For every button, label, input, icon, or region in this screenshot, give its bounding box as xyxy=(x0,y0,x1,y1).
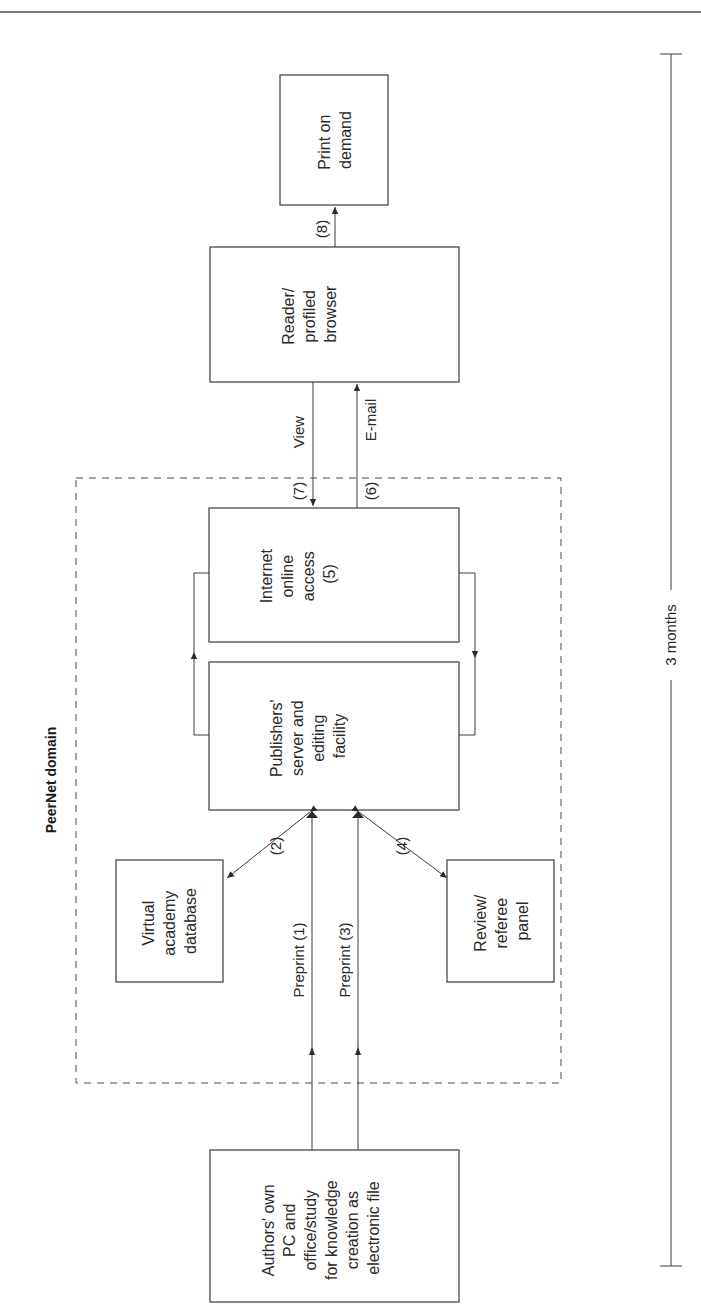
edge-publish-to-internet xyxy=(194,652,209,735)
node-reader-browser: Reader/ profiled browser xyxy=(210,247,459,382)
edge-label-step8: (8) xyxy=(313,220,330,238)
edge-label-view: View xyxy=(290,416,307,448)
arrow-head-preprint1 xyxy=(309,1047,315,1055)
arrow-head-preprint1-top xyxy=(306,811,318,818)
duration-label: 3 months xyxy=(662,604,679,666)
svg-text:Reader/ profiled b: Reader/ profiled browser xyxy=(280,283,339,344)
node-authors-pc: Authors' own PC and office/study for kno… xyxy=(210,1150,459,1302)
node-print-on-demand: Print on demand xyxy=(280,75,388,205)
edge-label-email: E-mail xyxy=(362,399,379,442)
node-review-panel: Review/ referee panel xyxy=(447,860,554,982)
node-publishers-server: Publishers' server and editing facility xyxy=(209,662,459,810)
arrow-head-preprint3 xyxy=(355,1047,361,1055)
edge-label-step7: (7) xyxy=(290,482,307,500)
node-internet-access: Internet online access (5) xyxy=(209,508,459,642)
edge-label-step6: (6) xyxy=(362,482,379,500)
peernet-domain-label: PeerNet domain xyxy=(43,727,59,834)
peernet-flow-diagram: PeerNet domain 3 months Print on demand … xyxy=(0,0,701,1310)
svg-text:Virtual academy da: Virtual academy database xyxy=(140,886,199,955)
edge-label-step2: (2) xyxy=(267,837,284,855)
edge-label-preprint1: Preprint (1) xyxy=(290,922,307,997)
duration-bracket: 3 months xyxy=(660,54,682,1266)
edge-label-step4: (4) xyxy=(393,837,410,855)
edge-label-preprint3: Preprint (3) xyxy=(336,922,353,997)
node-virtual-academy: Virtual academy database xyxy=(116,860,223,982)
edge-internet-to-publish xyxy=(459,573,475,658)
